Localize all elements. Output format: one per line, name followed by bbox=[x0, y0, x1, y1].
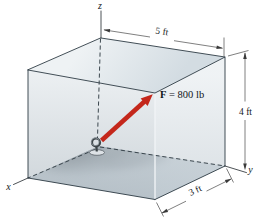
dim-3ft-label: 3 ft bbox=[187, 183, 203, 198]
dim-5ft-line-right bbox=[174, 41, 223, 49]
dim-4ft-label: 4 ft bbox=[239, 107, 252, 117]
z-axis-label: z bbox=[97, 0, 102, 11]
dim-4ft-arrow-top bbox=[243, 52, 247, 59]
dim-4ft-arrow-bottom bbox=[243, 164, 247, 171]
dim-5ft-arrow-right bbox=[216, 46, 223, 50]
force-label-value: = 800 lb bbox=[166, 89, 204, 100]
dim-5ft-arrow-left bbox=[104, 29, 111, 33]
dimension-4ft: 4 ft bbox=[228, 51, 252, 171]
dim-5ft-label: 5 ft bbox=[155, 26, 170, 38]
dim-3ft-arrow-right bbox=[225, 179, 232, 184]
dim-5ft-line-left bbox=[104, 30, 150, 37]
dim-3ft-arrow-left bbox=[162, 209, 169, 214]
dim-3ft-ext-line-left bbox=[157, 203, 164, 217]
y-axis-label: y bbox=[247, 164, 253, 175]
force-label: F = 800 lb bbox=[160, 89, 204, 100]
figure-canvas: z x y 5 ft 4 ft 3 ft F = 800 lb bbox=[0, 0, 259, 220]
x-axis-label: x bbox=[5, 181, 11, 192]
box-force-diagram: z x y 5 ft 4 ft 3 ft F = 800 lb bbox=[0, 0, 259, 220]
x-axis-line bbox=[14, 178, 29, 185]
